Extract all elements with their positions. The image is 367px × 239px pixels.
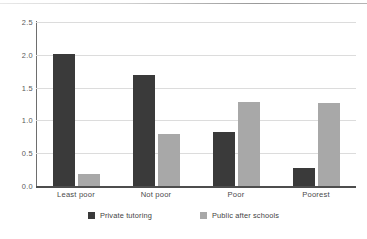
x-axis-tick-label: Not poor (116, 190, 196, 199)
bar[interactable] (213, 132, 235, 186)
bar-group (133, 22, 180, 186)
bar[interactable] (318, 103, 340, 186)
chart-legend: Private tutoringPublic after schools (0, 211, 367, 220)
bar[interactable] (53, 54, 75, 186)
x-axis-tick-label: Poorest (276, 190, 356, 199)
plot-area (36, 22, 356, 186)
y-axis-tick-label: 0.0 (3, 182, 33, 191)
x-axis-tick-label: Least poor (36, 190, 116, 199)
legend-swatch-icon (200, 212, 207, 219)
y-axis-tick-label: 1.5 (3, 83, 33, 92)
legend-swatch-icon (88, 212, 95, 219)
x-axis-tick-label: Poor (196, 190, 276, 199)
bar-group (213, 22, 260, 186)
y-axis-tick-label: 0.5 (3, 149, 33, 158)
legend-item[interactable]: Public after schools (200, 211, 279, 220)
legend-label: Private tutoring (100, 211, 152, 220)
legend-item[interactable]: Private tutoring (88, 211, 152, 220)
y-axis-tick-label: 1.0 (3, 116, 33, 125)
x-axis-line (36, 186, 356, 188)
y-axis-tick-label: 2.5 (3, 18, 33, 27)
y-axis-tick-labels: 0.00.51.01.52.02.5 (0, 0, 33, 239)
grouped-bar-chart: 0.00.51.01.52.02.5 Least poorNot poorPoo… (0, 0, 367, 239)
bar[interactable] (293, 168, 315, 186)
y-axis-tick-label: 2.0 (3, 50, 33, 59)
bar[interactable] (238, 102, 260, 186)
bar[interactable] (133, 75, 155, 186)
bar-group (53, 22, 100, 186)
legend-label: Public after schools (212, 211, 279, 220)
bar-group (293, 22, 340, 186)
bar[interactable] (158, 134, 180, 186)
bar[interactable] (78, 174, 100, 186)
